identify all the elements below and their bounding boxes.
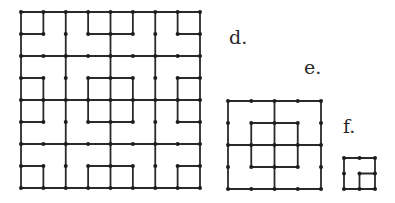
grid-dot <box>296 121 300 125</box>
grid-dot <box>296 99 300 103</box>
grid-dot <box>86 10 90 14</box>
grid-dot <box>273 187 277 191</box>
grid-dot <box>109 10 113 14</box>
grid-dot <box>41 54 45 58</box>
grid-dot <box>153 186 157 190</box>
grid-dot <box>176 164 180 168</box>
grid-dot <box>198 164 202 168</box>
grid-dot <box>41 98 45 102</box>
grid-dot <box>19 142 23 146</box>
grid-dot <box>86 186 90 190</box>
grid-dot <box>64 32 68 36</box>
grid-dot <box>273 121 277 125</box>
grid-dot <box>109 164 113 168</box>
grid-dot <box>86 54 90 58</box>
grid-dot <box>64 76 68 80</box>
grid-dot <box>64 54 68 58</box>
grid-dot <box>319 143 323 147</box>
grid-dot <box>358 187 362 191</box>
grid-dot <box>198 32 202 36</box>
grid-dot <box>131 10 135 14</box>
grid-dot <box>109 54 113 58</box>
grid-dot <box>176 98 180 102</box>
label-d: d. <box>229 28 247 47</box>
grid-dot <box>319 187 323 191</box>
grid-dot <box>226 165 230 169</box>
grid-dot <box>198 76 202 80</box>
grid-dot <box>64 142 68 146</box>
grid-dot <box>86 32 90 36</box>
figure-e-nested-square <box>226 99 323 191</box>
grid-dot <box>64 120 68 124</box>
grid-dot <box>86 142 90 146</box>
grid-dot <box>41 120 45 124</box>
grid-dot <box>319 121 323 125</box>
grid-dot <box>41 164 45 168</box>
grid-dot <box>198 142 202 146</box>
grid-dot <box>64 186 68 190</box>
grid-dot <box>198 98 202 102</box>
grid-dot <box>19 98 23 102</box>
grid-dot <box>176 76 180 80</box>
grid-dot <box>319 99 323 103</box>
grid-dot <box>86 120 90 124</box>
grid-dot <box>131 32 135 36</box>
grid-dot <box>176 32 180 36</box>
grid-dot <box>19 76 23 80</box>
grid-dot <box>131 142 135 146</box>
grid-dot <box>249 187 253 191</box>
grid-dot <box>342 156 346 160</box>
grid-dot <box>342 172 346 176</box>
figure-canvas <box>0 0 395 203</box>
grid-dot <box>153 32 157 36</box>
grid-dot <box>358 172 362 176</box>
grid-dot <box>153 54 157 58</box>
grid-dot <box>358 156 362 160</box>
grid-dot <box>176 10 180 14</box>
figure-d-fractal-grid <box>19 10 202 190</box>
grid-dot <box>198 10 202 14</box>
grid-dot <box>41 186 45 190</box>
grid-dot <box>109 186 113 190</box>
grid-dot <box>19 54 23 58</box>
grid-dot <box>19 120 23 124</box>
grid-dot <box>86 76 90 80</box>
grid-dot <box>249 99 253 103</box>
grid-dot <box>198 186 202 190</box>
grid-dot <box>86 164 90 168</box>
grid-dot <box>109 142 113 146</box>
grid-dot <box>226 121 230 125</box>
grid-dot <box>153 142 157 146</box>
grid-dot <box>131 76 135 80</box>
grid-dot <box>176 54 180 58</box>
figure-f-small-square <box>342 156 377 191</box>
grid-dot <box>153 98 157 102</box>
grid-dot <box>41 76 45 80</box>
grid-dot <box>109 76 113 80</box>
grid-dot <box>273 99 277 103</box>
grid-dot <box>296 143 300 147</box>
grid-dot <box>153 164 157 168</box>
grid-dot <box>19 32 23 36</box>
grid-dot <box>176 142 180 146</box>
grid-dot <box>64 164 68 168</box>
grid-dot <box>109 120 113 124</box>
grid-dot <box>273 165 277 169</box>
grid-dot <box>249 165 253 169</box>
grid-dot <box>19 186 23 190</box>
grid-dot <box>296 187 300 191</box>
grid-dot <box>226 187 230 191</box>
grid-dot <box>131 98 135 102</box>
grid-dot <box>373 187 377 191</box>
grid-dot <box>131 120 135 124</box>
grid-dot <box>176 186 180 190</box>
grid-dot <box>249 143 253 147</box>
grid-dot <box>273 143 277 147</box>
grid-dot <box>41 142 45 146</box>
grid-dot <box>373 172 377 176</box>
label-e: e. <box>304 58 321 77</box>
grid-dot <box>19 164 23 168</box>
grid-dot <box>86 98 90 102</box>
grid-dot <box>198 54 202 58</box>
grid-dot <box>153 76 157 80</box>
